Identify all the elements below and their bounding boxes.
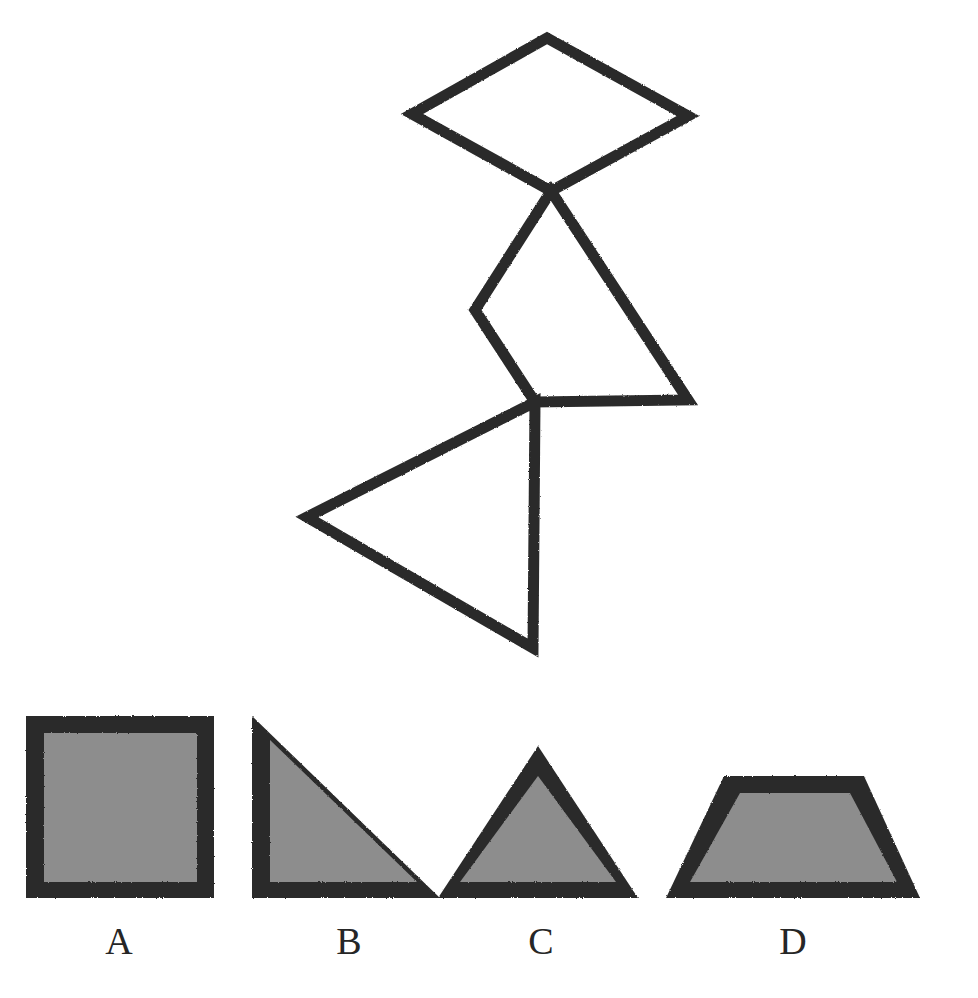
option-d-shape[interactable] — [652, 700, 934, 912]
figure-svg — [0, 0, 978, 700]
option-d-label: D — [652, 922, 934, 960]
option-b-shape[interactable] — [244, 700, 456, 912]
option-a-shape[interactable] — [14, 700, 226, 912]
figure-part-diamond — [412, 38, 688, 191]
option-b-inner-fill — [270, 740, 417, 882]
option-a-inner-fill — [44, 733, 197, 882]
option-c[interactable]: C — [434, 700, 648, 998]
answer-options: A B C — [0, 700, 978, 998]
figure-part-middle-quad — [475, 191, 688, 402]
main-figure — [0, 0, 978, 700]
option-c-shape[interactable] — [434, 700, 646, 912]
option-d[interactable]: D — [652, 700, 934, 998]
option-a[interactable]: A — [14, 700, 224, 998]
figure-part-lower-triangle — [307, 402, 535, 648]
option-b[interactable]: B — [244, 700, 454, 998]
option-b-label: B — [244, 922, 454, 960]
option-c-label: C — [434, 922, 648, 960]
option-a-label: A — [14, 922, 224, 960]
page-root: A B C — [0, 0, 978, 998]
